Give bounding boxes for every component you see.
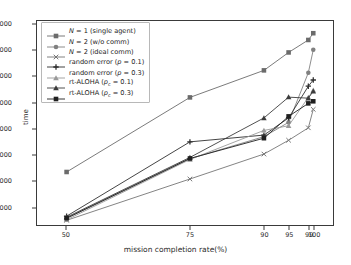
- x-tick-mark: [314, 226, 315, 230]
- y-tick-label: 8000: [0, 72, 12, 80]
- series-marker: [64, 216, 69, 221]
- x-tick-label: 95: [285, 231, 293, 239]
- series-marker: [188, 177, 193, 182]
- series-marker: [311, 99, 316, 104]
- series-marker: [311, 31, 316, 36]
- y-tick-label: 6000: [0, 125, 12, 133]
- y-tick-label: 10000: [0, 20, 12, 28]
- series-marker: [311, 48, 316, 53]
- series-marker: [187, 139, 192, 144]
- legend-item: rt-ALOHA (pc = 0.3): [45, 88, 144, 98]
- x-tick-label: 90: [260, 231, 268, 239]
- y-tick-label: 3000: [0, 204, 12, 212]
- series-marker: [310, 88, 316, 93]
- legend-item: N = 1 (single agent): [45, 26, 144, 36]
- series-marker: [306, 70, 311, 75]
- legend-label: N = 2 (ideal comm): [67, 48, 134, 56]
- series-marker: [262, 68, 267, 73]
- y-tick-label: 5000: [0, 151, 12, 159]
- legend-label: random error (p = 0.1): [67, 58, 144, 66]
- series-marker: [306, 38, 311, 43]
- y-tick-label: 4000: [0, 177, 12, 185]
- x-tick-label: 100: [308, 231, 320, 239]
- legend-item: N = 2 (w/o comm): [45, 36, 144, 46]
- y-axis-label: time: [22, 87, 30, 147]
- series-marker: [188, 156, 193, 161]
- legend-item: N = 2 (ideal comm): [45, 47, 144, 57]
- x-tick-label: 50: [62, 231, 70, 239]
- series-marker: [262, 136, 267, 141]
- series-marker: [286, 114, 291, 119]
- y-tick-label: 7000: [0, 99, 12, 107]
- x-tick-mark: [264, 226, 265, 230]
- series-marker: [188, 95, 193, 100]
- legend-item: random error (p = 0.1): [45, 57, 144, 67]
- legend-marker-glyph: [54, 96, 59, 101]
- legend-item: rt-ALOHA (pc = 0.1): [45, 78, 144, 88]
- chart-figure: 300040005000600070008000900010000 time 5…: [0, 0, 351, 265]
- x-axis-label: mission completion rate(%): [0, 245, 351, 254]
- legend-marker-icon: [45, 78, 67, 88]
- legend-marker-icon: [45, 47, 67, 57]
- chart-legend: N = 1 (single agent)N = 2 (w/o comm)N = …: [41, 22, 150, 103]
- series-marker: [262, 152, 267, 157]
- legend-item: random error (p = 0.3): [45, 68, 144, 78]
- legend-marker-icon: [45, 89, 67, 99]
- legend-label: rt-ALOHA (pc = 0.3): [67, 89, 133, 98]
- series-marker: [64, 170, 69, 175]
- legend-marker-icon: [45, 37, 67, 47]
- legend-label: N = 2 (w/o comm): [67, 38, 129, 46]
- x-tick-label: 75: [186, 231, 194, 239]
- legend-marker-icon: [45, 68, 67, 78]
- series-marker: [306, 101, 311, 106]
- x-tick-mark: [189, 226, 190, 230]
- series-line: [67, 91, 314, 217]
- series-marker: [286, 138, 291, 143]
- legend-label: rt-ALOHA (pc = 0.1): [67, 78, 133, 87]
- x-tick-mark: [65, 226, 66, 230]
- legend-label: random error (p = 0.3): [67, 69, 144, 77]
- series-marker: [286, 50, 291, 55]
- y-tick-label: 9000: [0, 46, 12, 54]
- x-tick-mark: [309, 226, 310, 230]
- legend-label: N = 1 (single agent): [67, 27, 136, 35]
- x-tick-mark: [289, 226, 290, 230]
- legend-marker-icon: [45, 57, 67, 67]
- legend-marker-icon: [45, 26, 67, 36]
